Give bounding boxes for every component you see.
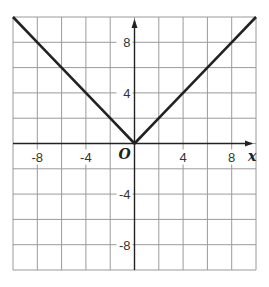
x-tick-label: 4	[179, 150, 186, 165]
origin-label: O	[119, 146, 132, 162]
x-tick-label: 8	[228, 150, 235, 165]
coordinate-plane: -8-44884-4-8 O x	[0, 0, 269, 287]
y-tick-label: -4	[119, 187, 131, 202]
x-axis-label: x	[247, 148, 257, 164]
y-tick-label: 8	[123, 35, 130, 50]
y-axis-arrow-icon	[132, 19, 138, 28]
y-tick-label: -8	[119, 238, 131, 253]
x-axis-arrow-icon	[245, 141, 253, 147]
x-tick-label: -4	[80, 150, 92, 165]
x-tick-label: -8	[32, 150, 44, 165]
y-tick-label: 4	[123, 86, 130, 101]
